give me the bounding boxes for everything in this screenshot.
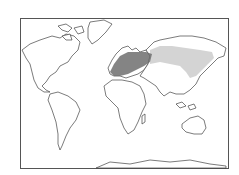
southeast-asia-islands: [176, 102, 196, 110]
greenland: [88, 20, 112, 44]
world-map: [0, 0, 239, 175]
north-america: [22, 34, 80, 92]
antarctica: [96, 160, 226, 168]
australia: [182, 116, 206, 134]
south-america: [48, 92, 80, 150]
africa: [104, 80, 146, 134]
madagascar: [142, 114, 145, 124]
